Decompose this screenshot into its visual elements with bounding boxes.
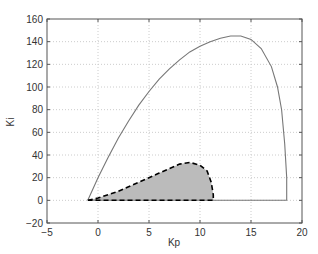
y-tick-label: 40 bbox=[32, 150, 44, 161]
x-tick-label: 15 bbox=[245, 227, 257, 238]
x-axis-label: Kp bbox=[168, 237, 181, 248]
x-tick-label: 10 bbox=[194, 227, 206, 238]
axis-ticks: −505101520−20020406080100120140160 bbox=[26, 14, 308, 239]
y-tick-label: 60 bbox=[32, 127, 44, 138]
x-tick-label: 5 bbox=[146, 227, 152, 238]
y-tick-label: 100 bbox=[26, 82, 43, 93]
y-tick-label: 0 bbox=[37, 195, 43, 206]
y-tick-label: −20 bbox=[26, 218, 43, 229]
y-tick-label: 140 bbox=[26, 36, 43, 47]
y-tick-label: 120 bbox=[26, 59, 43, 70]
y-tick-label: 20 bbox=[32, 172, 44, 183]
x-tick-label: 0 bbox=[95, 227, 101, 238]
y-tick-label: 80 bbox=[32, 104, 44, 115]
x-tick-label: −5 bbox=[41, 227, 53, 238]
y-tick-label: 160 bbox=[26, 14, 43, 25]
y-axis-label: Ki bbox=[5, 118, 16, 127]
x-tick-label: 20 bbox=[296, 227, 308, 238]
plot-area: −505101520−20020406080100120140160 Kp Ki bbox=[0, 0, 318, 254]
stability-region-chart: −505101520−20020406080100120140160 Kp Ki bbox=[0, 0, 318, 254]
